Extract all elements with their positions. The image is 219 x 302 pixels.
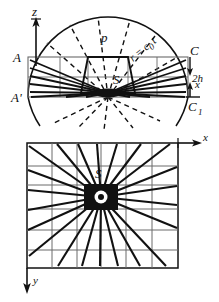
lower-ray xyxy=(52,97,108,124)
radius-formula-group: r = c 0 t xyxy=(127,34,161,66)
wavefront-arc-lower-left xyxy=(28,97,40,126)
point-A-label: A xyxy=(12,50,21,65)
z-axis xyxy=(31,17,41,66)
z-axis-label: z xyxy=(31,4,37,19)
x-axis-plan xyxy=(178,138,202,148)
source-label-plan: S xyxy=(95,166,102,181)
pressure-label: p xyxy=(100,30,108,45)
lower-ray xyxy=(78,97,108,128)
x-axis-plan-label: x xyxy=(202,131,208,143)
point-C1-label: C xyxy=(188,99,197,114)
thickness-label: 2h xyxy=(192,72,204,84)
technical-diagram: z x 2h A A' C C 1 p S r = c 0 t xyxy=(0,0,219,302)
plan-view: S x y xyxy=(23,131,208,294)
y-axis-plan-label: y xyxy=(32,274,38,286)
lower-radial-dashed-lines xyxy=(52,97,160,130)
wavefront-arc-lower-right xyxy=(176,97,188,126)
source-convergence-blob xyxy=(95,89,121,98)
source-label-elevation: S xyxy=(113,72,120,87)
lower-ray xyxy=(108,97,133,128)
point-C-label: C xyxy=(190,43,199,58)
y-axis-plan xyxy=(23,268,31,294)
point-C1-group: C 1 xyxy=(188,99,203,117)
elevation-view: z x 2h A A' C C 1 p S r = c 0 t xyxy=(10,4,204,130)
point-A-prime-label: A' xyxy=(10,90,22,105)
source-center-dot xyxy=(98,194,104,200)
point-C1-subscript: 1 xyxy=(198,107,203,117)
lower-ray xyxy=(108,97,160,121)
lower-ray xyxy=(104,97,108,130)
